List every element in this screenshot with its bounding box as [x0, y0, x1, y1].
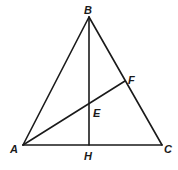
triangle-diagram: B A C H E F	[0, 0, 178, 170]
segment-ab	[23, 17, 89, 145]
label-h: H	[84, 150, 93, 162]
label-e: E	[93, 107, 101, 119]
label-b: B	[84, 4, 92, 16]
label-a: A	[9, 143, 18, 155]
label-f: F	[128, 74, 135, 86]
label-c: C	[164, 143, 173, 155]
segment-af	[23, 81, 125, 145]
